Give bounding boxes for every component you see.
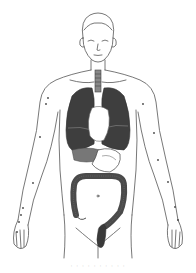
anatomy-figure (0, 0, 196, 273)
eye-left (88, 40, 94, 41)
hair-line (84, 23, 112, 30)
head-outline (82, 13, 113, 62)
trachea (95, 70, 101, 92)
heart (88, 106, 109, 141)
eye-right (102, 40, 108, 41)
figure-caption: · · · · · · · · · · (0, 262, 196, 269)
large-intestine (73, 176, 124, 226)
rectum (97, 224, 106, 248)
